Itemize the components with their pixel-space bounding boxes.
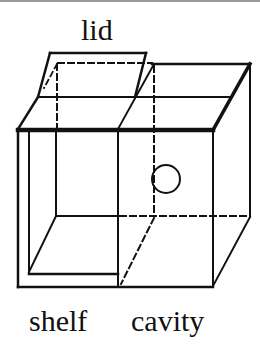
shelf-interior xyxy=(29,130,118,274)
hidden-bottom-diagonal-edge xyxy=(121,218,154,284)
lid-label: lid xyxy=(81,13,113,46)
box-front-face xyxy=(18,130,213,287)
box-diagram: lid shelf cavity xyxy=(0,0,260,350)
right-bottom-edge xyxy=(213,217,250,286)
lid-flap xyxy=(38,53,152,97)
shelf-label: shelf xyxy=(29,304,87,337)
box-top-face xyxy=(18,64,250,130)
cavity-hole-icon xyxy=(152,165,180,193)
cavity-label: cavity xyxy=(131,304,204,337)
